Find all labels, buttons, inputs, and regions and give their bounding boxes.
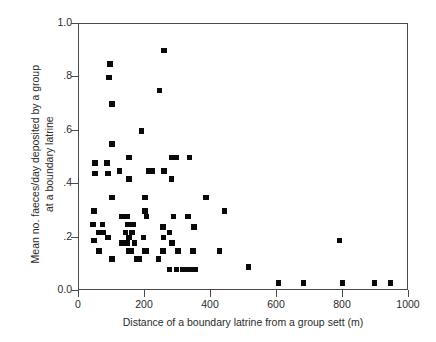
y-axis-title-line1: Mean no. faeces/day deposited by a group	[28, 24, 42, 304]
y-axis-tick	[71, 76, 78, 77]
y-axis-tick	[71, 130, 78, 131]
data-point	[131, 222, 136, 227]
data-point	[276, 280, 281, 285]
data-point	[126, 155, 131, 160]
data-point	[246, 264, 251, 269]
x-axis-tick-label: 200	[135, 299, 153, 310]
data-point	[128, 248, 133, 253]
y-axis-title-line2: at a boundary latrine	[42, 24, 56, 304]
data-point	[190, 248, 195, 253]
x-axis-tick	[276, 290, 277, 297]
data-point	[144, 248, 149, 253]
data-point	[126, 176, 131, 181]
data-point	[185, 214, 190, 219]
data-point	[91, 208, 96, 213]
data-point	[109, 195, 114, 200]
scatter-plot-figure: 0.0.2.4.6.81.0 Mean no. faeces/day depos…	[0, 0, 436, 342]
x-axis-title: Distance of a boundary latrine from a gr…	[78, 316, 408, 328]
x-axis-tick	[210, 290, 211, 297]
data-point	[92, 171, 97, 176]
data-point	[191, 224, 196, 229]
data-point	[92, 160, 97, 165]
data-point	[150, 168, 155, 173]
x-axis-tick	[78, 290, 79, 297]
data-point	[100, 222, 105, 227]
data-point	[174, 267, 179, 272]
data-point	[144, 214, 149, 219]
data-point	[132, 240, 137, 245]
x-axis-tick-label: 400	[201, 299, 219, 310]
data-point	[109, 256, 114, 261]
data-point	[175, 248, 180, 253]
data-point	[161, 235, 166, 240]
data-point	[105, 171, 110, 176]
data-point	[203, 195, 208, 200]
data-point	[107, 61, 112, 66]
data-point	[388, 280, 393, 285]
data-point	[156, 256, 161, 261]
data-point	[171, 214, 176, 219]
data-point	[192, 267, 197, 272]
data-point	[91, 238, 96, 243]
y-axis-title: Mean no. faeces/day deposited by a group…	[28, 24, 56, 304]
data-point	[337, 238, 342, 243]
data-point	[124, 214, 129, 219]
data-point	[167, 230, 172, 235]
data-point	[124, 240, 129, 245]
data-point	[301, 280, 306, 285]
data-point	[169, 176, 174, 181]
x-axis-tick-label: 800	[333, 299, 351, 310]
data-point	[160, 224, 165, 229]
data-point	[217, 248, 222, 253]
data-point	[372, 280, 377, 285]
data-point	[125, 222, 130, 227]
data-point	[174, 155, 179, 160]
data-point	[96, 248, 101, 253]
data-point	[109, 141, 114, 146]
data-point	[222, 208, 227, 213]
data-point	[106, 75, 111, 80]
x-axis-tick-label: 0	[75, 299, 81, 310]
data-point	[187, 155, 192, 160]
data-point	[139, 128, 144, 133]
x-axis-tick	[342, 290, 343, 297]
y-axis-tick	[71, 23, 78, 24]
y-axis-tick	[71, 183, 78, 184]
data-point	[109, 101, 114, 106]
data-point	[104, 160, 109, 165]
y-axis-tick	[71, 290, 78, 291]
x-axis-tick-label: 1000	[396, 299, 419, 310]
data-point	[161, 48, 166, 53]
data-point	[119, 240, 124, 245]
data-point	[160, 248, 165, 253]
data-point	[169, 240, 174, 245]
data-point	[105, 235, 110, 240]
data-point	[119, 214, 124, 219]
data-point	[136, 256, 141, 261]
data-point	[117, 168, 122, 173]
data-point	[90, 222, 95, 227]
x-axis-tick	[144, 290, 145, 297]
x-axis-tick	[408, 290, 409, 297]
x-axis-tick-label: 600	[267, 299, 285, 310]
data-point	[167, 267, 172, 272]
data-point	[157, 88, 162, 93]
data-point	[340, 280, 345, 285]
data-point	[141, 235, 146, 240]
data-point	[142, 195, 147, 200]
plot-area	[78, 23, 408, 290]
data-point	[161, 168, 166, 173]
y-axis-tick	[71, 237, 78, 238]
